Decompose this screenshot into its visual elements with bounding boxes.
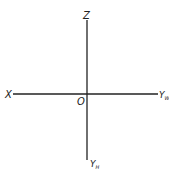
- yw-axis-label: YW: [159, 90, 169, 101]
- origin-label: O: [77, 96, 85, 107]
- projection-axes-diagram: Z X O YW YH: [0, 0, 169, 176]
- x-axis-label: X: [4, 89, 13, 100]
- yh-axis-label: YH: [90, 159, 100, 170]
- z-axis-label: Z: [82, 10, 91, 21]
